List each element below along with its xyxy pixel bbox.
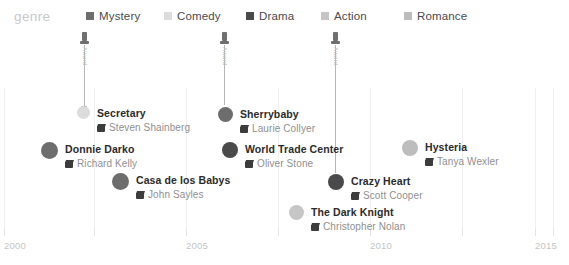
legend-item-romance[interactable]: Romance — [404, 10, 467, 22]
axis-tick-label: 2010 — [370, 240, 392, 251]
axis-tick-label: 2000 — [4, 240, 26, 251]
legend-item-drama[interactable]: Drama — [246, 10, 294, 22]
axis-tick-mark — [278, 229, 279, 236]
gridline — [553, 88, 554, 232]
award-stem-label: Award — [333, 47, 339, 65]
genre-dot — [222, 142, 238, 158]
legend-swatch-romance-icon — [404, 12, 412, 20]
film-title: Casa de los Babys — [136, 174, 231, 186]
film-entry[interactable]: World Trade CenterOliver Stone — [222, 139, 343, 169]
genre-dot — [41, 142, 58, 159]
film-title: Hysteria — [425, 141, 467, 153]
award-trophy-icon — [82, 32, 87, 41]
genre-dot — [328, 174, 344, 190]
clapperboard-icon — [245, 160, 253, 168]
film-title: Donnie Darko — [65, 143, 134, 155]
legend-swatch-comedy-icon — [164, 12, 172, 20]
axis-tick-mark — [553, 229, 554, 236]
film-entry[interactable]: Crazy HeartScott Cooper — [328, 171, 423, 201]
axis-tick-label: 2015 — [535, 240, 557, 251]
legend-item-label: Mystery — [99, 10, 140, 22]
film-entry[interactable]: SherrybabyLaurie Collyer — [218, 104, 315, 134]
genre-dot — [112, 173, 129, 190]
legend-swatch-drama-icon — [246, 12, 254, 20]
clapperboard-icon — [136, 191, 144, 199]
legend-item-label: Comedy — [177, 10, 221, 22]
film-title: The Dark Knight — [311, 206, 394, 218]
award-trophy-icon — [333, 32, 338, 41]
film-director: Scott Cooper — [363, 190, 423, 201]
clapperboard-icon — [65, 160, 73, 168]
clapperboard-icon — [97, 124, 105, 132]
clapperboard-icon — [311, 223, 319, 231]
axis-tick-mark — [462, 229, 463, 236]
legend-item-action[interactable]: Action — [321, 10, 367, 22]
award-stem-label: Award — [82, 47, 88, 65]
axis-tick-mark — [186, 229, 187, 236]
film-director: Steven Shainberg — [109, 122, 190, 133]
clapperboard-icon — [240, 125, 248, 133]
film-title: Secretary — [97, 107, 146, 119]
legend-item-label: Action — [334, 10, 367, 22]
film-director: Richard Kelly — [77, 158, 137, 169]
genre-dot — [402, 140, 418, 156]
genre-dot — [218, 107, 233, 122]
film-entry[interactable]: SecretarySteven Shainberg — [77, 103, 190, 133]
timeline-chart: genre MysteryComedyDramaActionRomance Aw… — [0, 0, 569, 265]
legend: genre MysteryComedyDramaActionRomance — [0, 7, 569, 29]
film-director: John Sayles — [148, 189, 204, 200]
gridline — [4, 88, 5, 232]
clapperboard-icon — [351, 192, 359, 200]
film-entry[interactable]: Donnie DarkoRichard Kelly — [41, 139, 137, 169]
film-director: Laurie Collyer — [252, 123, 315, 134]
legend-title: genre — [14, 9, 51, 24]
legend-item-label: Romance — [417, 10, 467, 22]
axis-tick-mark — [535, 229, 536, 236]
film-director: Oliver Stone — [257, 158, 313, 169]
film-title: Sherrybaby — [240, 108, 299, 120]
gridline — [535, 88, 536, 232]
legend-item-label: Drama — [259, 10, 294, 22]
legend-swatch-mystery-icon — [86, 12, 94, 20]
axis-tick-mark — [4, 229, 5, 236]
axis-tick-mark — [94, 229, 95, 236]
film-director: Tanya Wexler — [437, 156, 499, 167]
film-title: World Trade Center — [245, 143, 343, 155]
axis-tick-label: 2005 — [186, 240, 208, 251]
award-stem-label: Award — [222, 47, 228, 65]
film-entry[interactable]: Casa de los BabysJohn Sayles — [112, 170, 231, 200]
award-trophy-icon — [222, 32, 227, 41]
film-director: Christopher Nolan — [323, 221, 405, 232]
film-entry[interactable]: HysteriaTanya Wexler — [402, 137, 499, 167]
genre-dot — [77, 106, 90, 119]
legend-item-comedy[interactable]: Comedy — [164, 10, 221, 22]
legend-swatch-action-icon — [321, 12, 329, 20]
film-title: Crazy Heart — [351, 175, 410, 187]
clapperboard-icon — [425, 158, 433, 166]
legend-item-mystery[interactable]: Mystery — [86, 10, 140, 22]
genre-dot — [289, 205, 304, 220]
film-entry[interactable]: The Dark KnightChristopher Nolan — [289, 202, 405, 232]
